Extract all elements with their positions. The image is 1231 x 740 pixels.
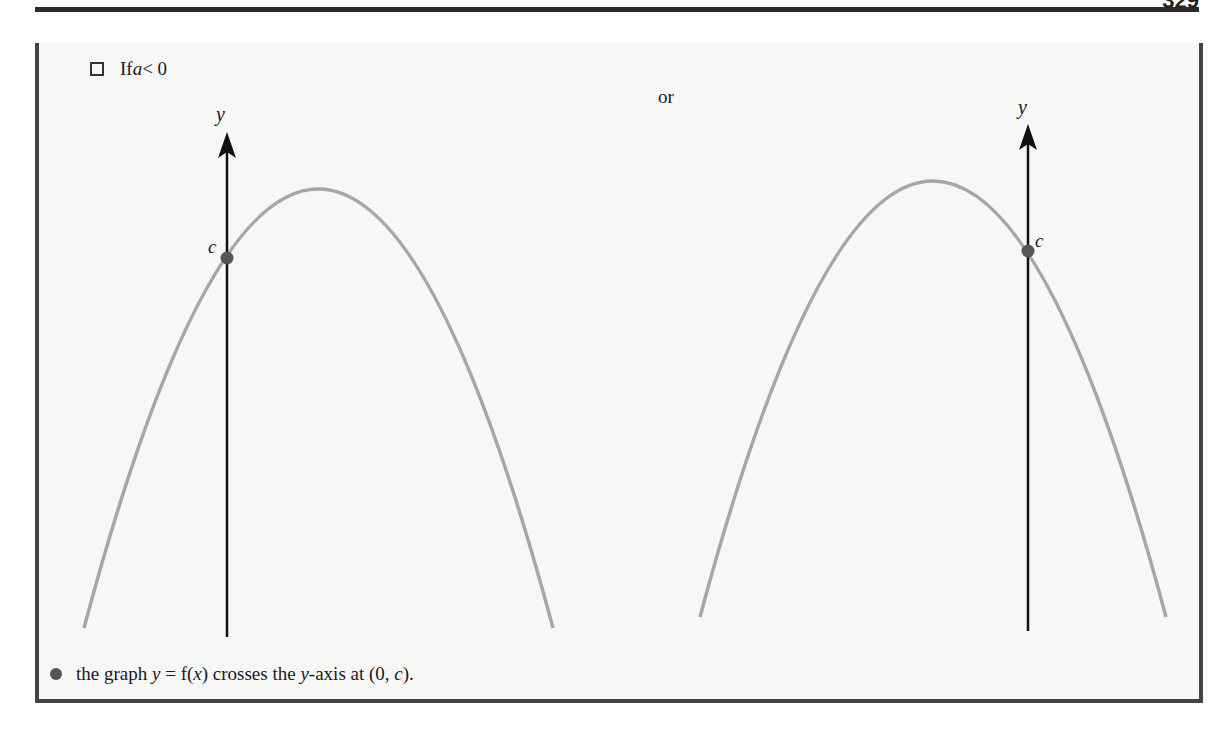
right-intercept-label: c bbox=[1035, 230, 1044, 251]
parabola-graphs: y c y c bbox=[0, 0, 1231, 740]
left-parabola bbox=[84, 189, 553, 628]
right-parabola bbox=[700, 181, 1166, 617]
left-intercept-label: c bbox=[208, 236, 217, 257]
bullet-statement: the graph y = f(x) crosses the y-axis at… bbox=[50, 663, 414, 685]
right-axis-label: y bbox=[1016, 96, 1027, 119]
left-graph: y c bbox=[84, 103, 553, 637]
left-axis-label: y bbox=[214, 103, 225, 126]
left-intercept-point bbox=[221, 252, 234, 265]
right-intercept-point bbox=[1022, 245, 1035, 258]
round-bullet-icon bbox=[50, 668, 62, 680]
right-graph: y c bbox=[700, 96, 1166, 631]
